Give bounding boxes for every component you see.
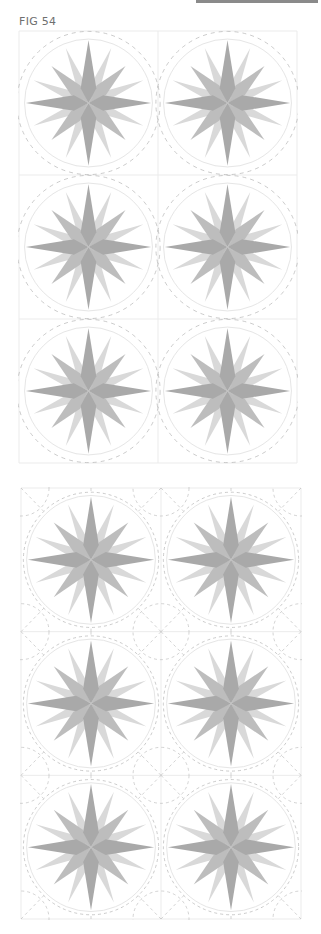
compass-star-block — [25, 39, 153, 167]
compass-star-block — [25, 183, 153, 311]
compass-star-block — [164, 327, 292, 455]
quilting-layout-b — [20, 487, 302, 920]
compass-star-block — [27, 495, 156, 624]
compass-star-block — [167, 639, 296, 768]
compass-star-block — [25, 327, 153, 455]
compass-star-block — [164, 183, 292, 311]
compass-star-block — [164, 39, 292, 167]
quilting-layout-a — [18, 30, 298, 464]
top-rule-bar — [196, 0, 318, 3]
compass-star-block — [167, 783, 296, 912]
compass-star-block — [27, 783, 156, 912]
compass-star-block — [27, 639, 156, 768]
compass-star-block — [167, 495, 296, 624]
figure-label: FIG 54 — [19, 15, 56, 28]
